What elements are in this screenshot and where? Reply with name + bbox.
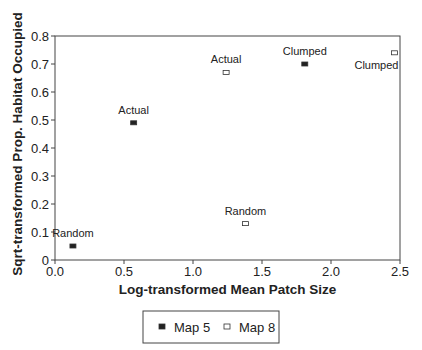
y-tick-label: 0 [42, 253, 49, 268]
y-tick-label: 0.1 [31, 225, 49, 240]
y-tick-label: 0.2 [31, 197, 49, 212]
data-point [223, 70, 229, 74]
legend-entry: Map 8 [239, 320, 275, 335]
x-tick-label: 0.5 [115, 264, 133, 279]
legend-marker [159, 324, 165, 329]
legend-entry: Map 5 [174, 320, 210, 335]
x-tick-label: 1.5 [253, 264, 271, 279]
point-label: Clumped [354, 59, 398, 71]
data-point [391, 51, 397, 55]
point-label: Clumped [283, 45, 327, 57]
point-label: Random [52, 227, 94, 239]
point-label: Random [225, 205, 267, 217]
data-point [131, 121, 137, 125]
y-tick-label: 0.3 [31, 169, 49, 184]
point-label: Actual [118, 104, 149, 116]
y-tick-label: 0.7 [31, 57, 49, 72]
x-tick-label: 2.0 [322, 264, 340, 279]
data-point [302, 62, 308, 66]
y-tick-label: 0.6 [31, 85, 49, 100]
point-label: Actual [211, 53, 242, 65]
y-axis-label: Sqrt-transformed Prop. Habitat Occupied [10, 12, 25, 275]
y-tick-label: 0.5 [31, 113, 49, 128]
data-point [70, 244, 76, 248]
y-tick-label: 0.4 [31, 141, 49, 156]
x-tick-label: 1.0 [184, 264, 202, 279]
plot-area [55, 36, 400, 260]
x-tick-label: 2.5 [391, 264, 409, 279]
legend-marker [224, 324, 230, 329]
y-tick-label: 0.8 [31, 29, 49, 44]
x-axis-label: Log-transformed Mean Patch Size [119, 282, 337, 297]
data-point [242, 222, 248, 226]
scatter-chart: 0.00.51.01.52.02.500.10.20.30.40.50.60.7… [0, 0, 422, 350]
